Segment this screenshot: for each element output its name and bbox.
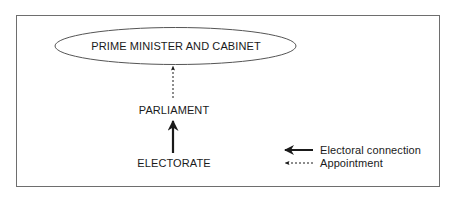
legend-appointment-label: Appointment bbox=[320, 158, 383, 169]
parliament-label: PARLIAMENT bbox=[139, 105, 209, 116]
legend-electoral-connection-label: Electoral connection bbox=[320, 145, 421, 156]
electorate-label: ELECTORATE bbox=[137, 158, 210, 169]
cabinet-label: PRIME MINISTER AND CABINET bbox=[91, 41, 260, 52]
diagram-canvas bbox=[0, 0, 457, 200]
